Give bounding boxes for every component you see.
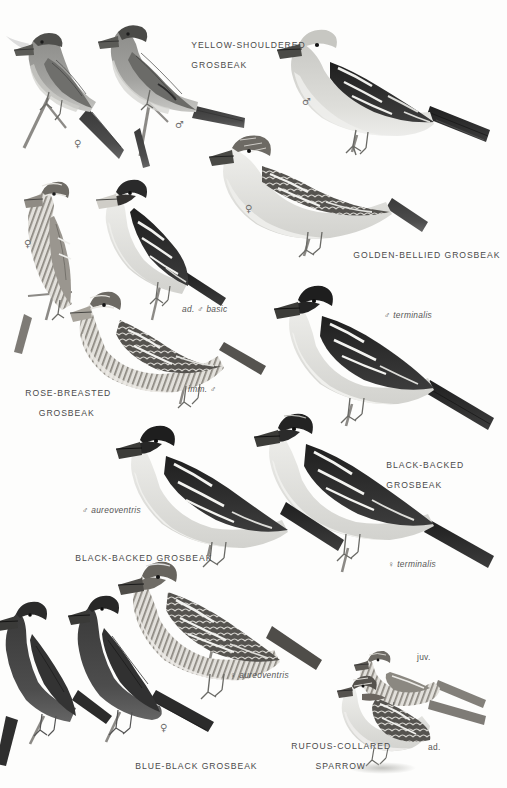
sex-symbol-blue-black-female: ♀ — [160, 722, 167, 733]
species-line: BLUE-BLACK GROSBEAK — [135, 761, 257, 771]
sex-symbol-yellow-shouldered-female: ♀ — [74, 138, 81, 149]
field-guide-plate: YELLOW-SHOULDERED GROSBEAK GOLDEN-BELLIE… — [0, 0, 507, 788]
figure-rose-breasted-female — [14, 182, 72, 354]
species-label-rufous-collared-sparrow: RUFOUS-COLLARED SPARROW — [278, 731, 390, 782]
annotation-male-aureoventris: ♂ aureoventris — [82, 506, 141, 516]
sex-symbol-golden-bellied-male: ♂ — [302, 96, 311, 107]
species-line: RUFOUS-COLLARED — [291, 741, 391, 751]
species-line: BLACK-BACKED — [386, 460, 464, 470]
annotation-female-aureoventris: ♀ aureoventris — [230, 671, 289, 681]
species-label-rose-breasted-grosbeak: ROSE-BREASTED GROSBEAK — [12, 378, 108, 429]
species-line: GROSBEAK — [39, 408, 95, 418]
sex-symbol-golden-bellied-female: ♀ — [245, 203, 252, 214]
species-line: GOLDEN-BELLIED GROSBEAK — [353, 250, 500, 260]
figure-yellow-shouldered-female — [6, 33, 124, 159]
species-label-yellow-shouldered-grosbeak: YELLOW-SHOULDERED GROSBEAK — [178, 30, 306, 81]
sex-symbol-rose-breasted-female: ♀ — [24, 238, 31, 249]
species-line: GROSBEAK — [386, 480, 442, 490]
species-line: YELLOW-SHOULDERED — [191, 40, 305, 50]
species-label-black-backed-grosbeak-right: BLACK-BACKED GROSBEAK — [373, 450, 464, 501]
figure-golden-bellied-female — [209, 136, 428, 258]
annotation-imm-male: imm. ♂ — [188, 385, 217, 395]
sex-symbol-yellow-shouldered-male: ♂ — [175, 119, 184, 130]
species-line: SPARROW — [315, 761, 365, 771]
annotation-juvenile: juv. — [417, 653, 431, 663]
annotation-adult: ad. — [428, 743, 441, 753]
annotation-female-terminalis: ♀ terminalis — [388, 560, 436, 570]
figure-golden-bellied-male — [277, 30, 490, 155]
species-line: GROSBEAK — [191, 60, 247, 70]
species-label-golden-bellied-grosbeak: GOLDEN-BELLIED GROSBEAK — [340, 240, 500, 270]
figure-black-backed-male-terminalis — [274, 286, 494, 430]
species-line: ROSE-BREASTED — [25, 388, 111, 398]
annotation-ad-male-basic: ad. ♂ basic — [182, 305, 227, 315]
species-label-black-backed-grosbeak-left: BLACK-BACKED GROSBEAK — [62, 543, 212, 573]
figure-black-backed-female-aureoventris — [118, 562, 322, 699]
annotation-male-terminalis: ♂ terminalis — [384, 311, 432, 321]
species-label-blue-black-grosbeak: BLUE-BLACK GROSBEAK — [122, 751, 258, 781]
species-line: BLACK-BACKED GROSBEAK — [75, 553, 212, 563]
